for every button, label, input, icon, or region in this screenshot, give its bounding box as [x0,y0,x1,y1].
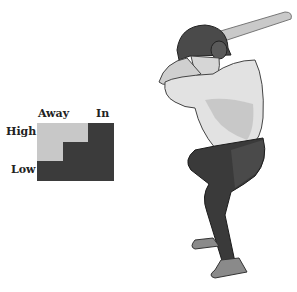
row-label-high: High [6,125,36,138]
shoe-front-icon [211,258,247,278]
zone-hot-upper [37,123,88,142]
column-label-in: In [96,107,109,120]
column-label-away: Away [38,107,69,120]
batter-illustration [135,0,297,292]
shoe-back-icon [192,238,219,249]
strike-zone-grid [37,123,114,181]
row-label-low: Low [11,163,36,176]
zone-hot-middle [37,142,63,161]
